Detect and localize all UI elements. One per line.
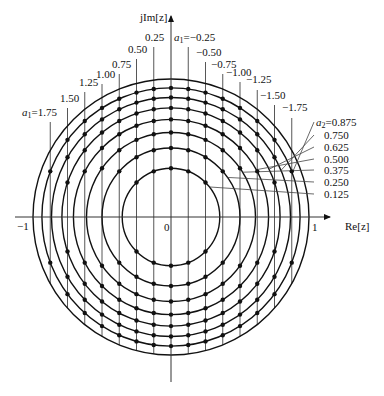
pole-dot (203, 306, 207, 310)
pole-dot (238, 146, 242, 150)
a1-label: −1.75 (282, 101, 308, 113)
pole-dot (65, 138, 69, 142)
pole-dot (186, 87, 190, 91)
pole-dot (186, 311, 190, 315)
pole-dot (186, 323, 190, 327)
pole-dot (238, 284, 242, 288)
pole-dot (152, 333, 156, 337)
imag-axis-label: jIm[z] (139, 11, 167, 23)
pole-dot (169, 95, 173, 99)
pole-dot (134, 90, 138, 94)
pole-dot (134, 180, 138, 184)
a2-label: 0.125 (324, 188, 349, 200)
pole-dot (186, 107, 190, 111)
pole-dot (152, 119, 156, 123)
pole-dot (203, 155, 207, 159)
z-plane-figure: −1 0 1 Re[z] jIm[z] a1=1.751.501.251.000… (0, 0, 384, 396)
pole-dot (152, 148, 156, 152)
pole-dot (238, 130, 242, 134)
pole-dot (152, 87, 156, 91)
pole-dot (290, 260, 294, 264)
real-axis-label: Re[z] (345, 220, 369, 232)
pole-dot (203, 124, 207, 128)
pole-dot (117, 169, 121, 173)
pole-dot (100, 299, 104, 303)
pole-dot (169, 166, 173, 170)
pole-dot (65, 155, 69, 159)
pole-dot (255, 260, 259, 264)
pole-dot (255, 282, 259, 286)
pole-dot (186, 298, 190, 302)
a2-leader-lines (209, 122, 314, 194)
a1-label: −1.50 (260, 89, 286, 101)
pole-dot (117, 97, 121, 101)
pole-dot (134, 100, 138, 104)
pole-dot (83, 311, 87, 315)
pole-dot (186, 119, 190, 123)
pole-dot (203, 138, 207, 142)
pole-dot (152, 311, 156, 315)
pole-dot (169, 264, 173, 268)
pole-dot (65, 249, 69, 253)
pole-dot (238, 106, 242, 110)
pole-dot (203, 100, 207, 104)
pole-dot (83, 169, 87, 173)
a2-label: 0.250 (324, 176, 349, 188)
pole-dot (100, 106, 104, 110)
pole-dot (152, 132, 156, 136)
pole-dot (65, 180, 69, 184)
pole-dot (169, 312, 173, 316)
pole-dot (238, 299, 242, 303)
pole-dot (152, 298, 156, 302)
pole-dot (100, 130, 104, 134)
axes: −1 0 1 Re[z] jIm[z] (15, 11, 369, 382)
pole-dot (169, 299, 173, 303)
pole-dot (117, 282, 121, 286)
pole-dot (272, 275, 276, 279)
pole-dot (152, 323, 156, 327)
pole-dot (272, 180, 276, 184)
pole-dot (169, 284, 173, 288)
pole-dot (117, 260, 121, 264)
pole-dot (83, 282, 87, 286)
tick-zero: 0 (164, 221, 170, 233)
pole-dot (134, 124, 138, 128)
pole-dot (186, 333, 190, 337)
a1-label: a1=−0.25 (174, 31, 216, 45)
pole-dot (255, 169, 259, 173)
pole-dot (134, 249, 138, 253)
pole-dot (203, 180, 207, 184)
pole-dot (134, 275, 138, 279)
a1-label: −0.50 (196, 46, 222, 58)
a2-leader (243, 170, 314, 172)
a1-label: 0.50 (128, 43, 148, 55)
pole-dot (100, 264, 104, 268)
pole-dot (100, 146, 104, 150)
pole-dot (203, 292, 207, 296)
pole-dot (117, 333, 121, 337)
pole-dot (203, 90, 207, 94)
pole-dot (48, 169, 52, 173)
pole-dot (186, 148, 190, 152)
pole-dot (83, 148, 87, 152)
pole-dot (117, 107, 121, 111)
pole-dot (152, 107, 156, 111)
pole-dot (83, 132, 87, 136)
a2-label: 0.375 (324, 164, 349, 176)
pole-locus-diagram: −1 0 1 Re[z] jIm[z] a1=1.751.501.251.000… (0, 0, 384, 396)
pole-dot (221, 298, 225, 302)
pole-dot (169, 117, 173, 121)
pole-dot (221, 148, 225, 152)
pole-dot (238, 312, 242, 316)
pole-dot (272, 249, 276, 253)
pole-dot (221, 282, 225, 286)
pole-dot (203, 318, 207, 322)
pole-dot (152, 343, 156, 347)
pole-dot (152, 169, 156, 173)
pole-dot (221, 333, 225, 337)
pole-dot (238, 264, 242, 268)
pole-dot (203, 249, 207, 253)
pole-dot (117, 298, 121, 302)
a1-label: a1=1.75 (22, 106, 57, 120)
pole-dot (186, 132, 190, 136)
